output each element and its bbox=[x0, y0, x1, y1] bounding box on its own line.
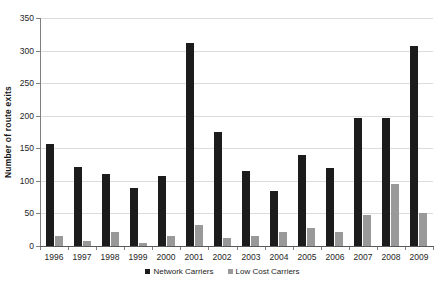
x-category-label-2002: 2002 bbox=[208, 252, 236, 262]
x-tick-6 bbox=[208, 247, 209, 250]
legend-item-network-carriers: Network Carriers bbox=[145, 267, 213, 276]
gridline-50 bbox=[40, 213, 433, 214]
x-tick-9 bbox=[293, 247, 294, 250]
bar-low-cost-carriers-1998 bbox=[111, 232, 119, 246]
gridline-150 bbox=[40, 148, 433, 149]
gridline-200 bbox=[40, 116, 433, 117]
x-tick-2 bbox=[96, 247, 97, 250]
y-axis-title: Number of route exits bbox=[3, 86, 13, 178]
bar-network-carriers-2005 bbox=[298, 155, 306, 246]
y-tick-label-0: 0 bbox=[8, 241, 34, 251]
x-category-label-2008: 2008 bbox=[377, 252, 405, 262]
bar-low-cost-carriers-2003 bbox=[251, 236, 259, 246]
bar-low-cost-carriers-2009 bbox=[419, 213, 427, 246]
legend-label-low-cost-carriers: Low Cost Carriers bbox=[236, 267, 300, 276]
legend-label-network-carriers: Network Carriers bbox=[153, 267, 213, 276]
x-category-label-2009: 2009 bbox=[405, 252, 433, 262]
bar-network-carriers-1997 bbox=[74, 167, 82, 246]
y-tick-label-100: 100 bbox=[8, 176, 34, 186]
x-category-label-2003: 2003 bbox=[237, 252, 265, 262]
bar-low-cost-carriers-2007 bbox=[363, 215, 371, 246]
bar-network-carriers-1999 bbox=[130, 188, 138, 246]
bar-low-cost-carriers-2008 bbox=[391, 184, 399, 246]
legend-swatch-network-carriers bbox=[145, 269, 150, 274]
gridline-100 bbox=[40, 181, 433, 182]
x-category-label-1998: 1998 bbox=[96, 252, 124, 262]
bar-low-cost-carriers-1996 bbox=[55, 236, 63, 246]
legend-item-low-cost-carriers: Low Cost Carriers bbox=[228, 267, 300, 276]
y-axis-line bbox=[40, 18, 41, 247]
x-category-label-1996: 1996 bbox=[40, 252, 68, 262]
y-tick-label-350: 350 bbox=[8, 13, 34, 23]
x-category-label-2006: 2006 bbox=[321, 252, 349, 262]
gridline-250 bbox=[40, 83, 433, 84]
bar-network-carriers-2001 bbox=[186, 43, 194, 246]
x-category-label-2001: 2001 bbox=[180, 252, 208, 262]
bar-low-cost-carriers-2000 bbox=[167, 236, 175, 246]
gridline-300 bbox=[40, 51, 433, 52]
x-tick-14 bbox=[433, 247, 434, 250]
bar-low-cost-carriers-2004 bbox=[279, 232, 287, 246]
x-tick-13 bbox=[405, 247, 406, 250]
x-category-label-2004: 2004 bbox=[265, 252, 293, 262]
bar-network-carriers-1996 bbox=[46, 144, 54, 246]
bar-low-cost-carriers-2002 bbox=[223, 238, 231, 246]
legend: Network Carriers Low Cost Carriers bbox=[0, 267, 445, 276]
bar-low-cost-carriers-2001 bbox=[195, 225, 203, 246]
x-tick-1 bbox=[68, 247, 69, 250]
bar-network-carriers-2004 bbox=[270, 191, 278, 246]
x-tick-7 bbox=[237, 247, 238, 250]
bar-low-cost-carriers-2006 bbox=[335, 232, 343, 246]
bar-network-carriers-2003 bbox=[242, 171, 250, 246]
y-tick-label-50: 50 bbox=[8, 208, 34, 218]
route-exits-bar-chart: Number of route exits Network Carriers L… bbox=[0, 0, 445, 291]
bar-network-carriers-1998 bbox=[102, 174, 110, 246]
x-category-label-2007: 2007 bbox=[349, 252, 377, 262]
bar-low-cost-carriers-2005 bbox=[307, 228, 315, 246]
x-tick-0 bbox=[40, 247, 41, 250]
bar-network-carriers-2009 bbox=[410, 46, 418, 246]
x-tick-10 bbox=[321, 247, 322, 250]
bar-network-carriers-2002 bbox=[214, 132, 222, 246]
x-category-label-2005: 2005 bbox=[293, 252, 321, 262]
x-tick-12 bbox=[377, 247, 378, 250]
bar-network-carriers-2000 bbox=[158, 176, 166, 246]
bar-network-carriers-2008 bbox=[382, 118, 390, 246]
x-tick-5 bbox=[180, 247, 181, 250]
x-tick-11 bbox=[349, 247, 350, 250]
legend-swatch-low-cost-carriers bbox=[228, 269, 233, 274]
x-tick-3 bbox=[124, 247, 125, 250]
bar-network-carriers-2006 bbox=[326, 168, 334, 246]
x-tick-4 bbox=[152, 247, 153, 250]
bar-network-carriers-2007 bbox=[354, 118, 362, 246]
y-tick-label-250: 250 bbox=[8, 78, 34, 88]
y-tick-label-200: 200 bbox=[8, 111, 34, 121]
x-category-label-2000: 2000 bbox=[152, 252, 180, 262]
gridline-350 bbox=[40, 18, 433, 19]
x-category-label-1999: 1999 bbox=[124, 252, 152, 262]
y-tick-label-150: 150 bbox=[8, 143, 34, 153]
x-tick-8 bbox=[265, 247, 266, 250]
y-tick-label-300: 300 bbox=[8, 46, 34, 56]
x-category-label-1997: 1997 bbox=[68, 252, 96, 262]
